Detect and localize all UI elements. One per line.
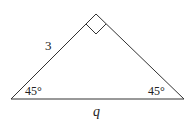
- angle-label-right: 45°: [148, 84, 165, 98]
- right-angle-marker: [86, 24, 106, 34]
- side-label-left: 3: [45, 38, 52, 53]
- triangle-diagram: 3 45° 45° q: [0, 0, 196, 129]
- angle-label-left: 45°: [25, 84, 42, 98]
- base-label: q: [93, 104, 100, 119]
